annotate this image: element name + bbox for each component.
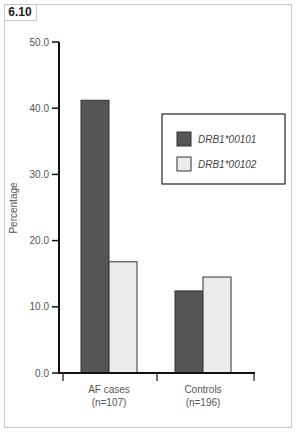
y-tick-label: 30.0 (30, 169, 50, 180)
legend-swatch (177, 132, 191, 146)
y-tick-label: 0.0 (35, 368, 49, 379)
x-category-label: Controls (184, 384, 221, 395)
y-tick-label: 40.0 (30, 103, 50, 114)
bar-2 (109, 262, 137, 373)
y-axis-label: Percentage (8, 182, 19, 234)
legend-label: DRB1*00102 (198, 159, 257, 170)
legend-label: DRB1*00101 (198, 134, 256, 145)
bar-chart: 0.010.020.030.040.050.0 AF cases(n=107)C… (0, 0, 298, 434)
y-tick-label: 10.0 (30, 301, 50, 312)
x-category-label: (n=107) (92, 397, 127, 408)
x-axis: AF cases(n=107)Controls(n=196) (59, 373, 255, 408)
x-category-label: (n=196) (186, 397, 221, 408)
bar-1 (175, 291, 203, 373)
y-axis: 0.010.020.030.040.050.0 (30, 37, 59, 379)
legend-box (162, 114, 285, 184)
bar-2 (203, 277, 231, 373)
x-category-label: AF cases (88, 384, 130, 395)
y-tick-label: 20.0 (30, 235, 50, 246)
bar-1 (81, 100, 109, 373)
legend: DRB1*00101DRB1*00102 (162, 114, 285, 184)
y-tick-label: 50.0 (30, 37, 50, 48)
legend-swatch (177, 157, 191, 171)
